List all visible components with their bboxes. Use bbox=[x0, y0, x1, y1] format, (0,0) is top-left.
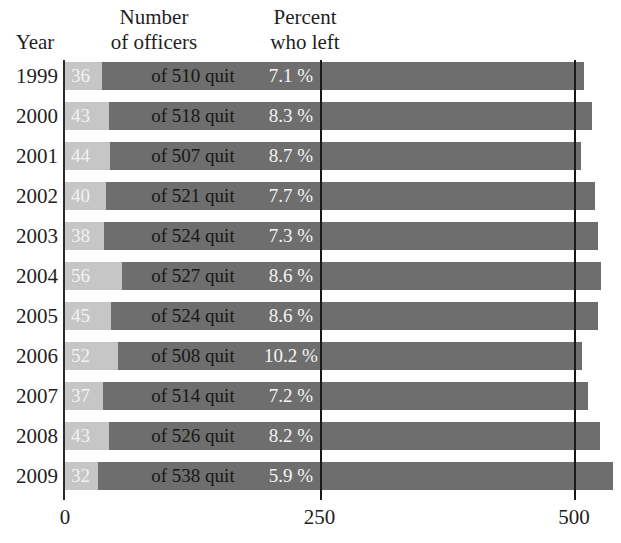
row-quit-count-label: 32 bbox=[71, 462, 90, 490]
x-axis-tick-labels: 0250500 bbox=[0, 500, 621, 540]
row-year-label: 2006 bbox=[0, 342, 58, 370]
row-of-total-label: of 507 quit bbox=[133, 142, 253, 170]
row-year-label: 2000 bbox=[0, 102, 58, 130]
row-quit-count-label: 38 bbox=[71, 222, 90, 250]
row-quit-count-label: 44 bbox=[71, 142, 90, 170]
header-number-line1: Number bbox=[120, 5, 189, 29]
chart-row: 200737of 514 quit7.2 % bbox=[0, 382, 621, 410]
chart-row: 200843of 526 quit8.2 % bbox=[0, 422, 621, 450]
chart-row: 199936of 510 quit7.1 % bbox=[0, 62, 621, 90]
chart-row: 200652of 508 quit10.2 % bbox=[0, 342, 621, 370]
row-percent-label: 10.2 % bbox=[255, 342, 327, 370]
row-percent-label: 8.3 % bbox=[255, 102, 327, 130]
x-tick-500: 500 bbox=[544, 504, 604, 530]
row-percent-label: 8.2 % bbox=[255, 422, 327, 450]
row-quit-count-label: 45 bbox=[71, 302, 90, 330]
header-percent-line2: who left bbox=[270, 30, 339, 54]
header-year: Year bbox=[6, 30, 64, 55]
header-number-line2: of officers bbox=[111, 30, 198, 54]
gridline-250 bbox=[320, 60, 322, 500]
row-of-total-label: of 521 quit bbox=[133, 182, 253, 210]
chart-row: 200545of 524 quit8.6 % bbox=[0, 302, 621, 330]
row-of-total-label: of 527 quit bbox=[133, 262, 253, 290]
row-year-label: 2002 bbox=[0, 182, 58, 210]
row-of-total-label: of 524 quit bbox=[133, 302, 253, 330]
row-percent-label: 7.1 % bbox=[255, 62, 327, 90]
row-percent-label: 8.6 % bbox=[255, 262, 327, 290]
row-percent-label: 8.7 % bbox=[255, 142, 327, 170]
chart-row: 200043of 518 quit8.3 % bbox=[0, 102, 621, 130]
row-year-label: 2008 bbox=[0, 422, 58, 450]
row-percent-label: 7.7 % bbox=[255, 182, 327, 210]
chart-row: 200932of 538 quit5.9 % bbox=[0, 462, 621, 490]
row-year-label: 2009 bbox=[0, 462, 58, 490]
row-of-total-label: of 514 quit bbox=[133, 382, 253, 410]
row-of-total-label: of 524 quit bbox=[133, 222, 253, 250]
row-percent-label: 7.2 % bbox=[255, 382, 327, 410]
header-percent-line1: Percent bbox=[274, 5, 337, 29]
chart-row: 200338of 524 quit7.3 % bbox=[0, 222, 621, 250]
row-of-total-label: of 518 quit bbox=[133, 102, 253, 130]
plot-area: 199936of 510 quit7.1 %200043of 518 quit8… bbox=[0, 60, 621, 500]
row-quit-count-label: 43 bbox=[71, 102, 90, 130]
row-percent-label: 5.9 % bbox=[255, 462, 327, 490]
officer-attrition-bar-chart: Year Numberof officers Percentwho left 1… bbox=[0, 0, 621, 543]
chart-row: 200240of 521 quit7.7 % bbox=[0, 182, 621, 210]
row-quit-count-label: 40 bbox=[71, 182, 90, 210]
header-percent-who-left: Percentwho left bbox=[240, 5, 370, 55]
row-percent-label: 8.6 % bbox=[255, 302, 327, 330]
header-number-of-officers: Numberof officers bbox=[84, 5, 224, 55]
row-year-label: 2001 bbox=[0, 142, 58, 170]
row-of-total-label: of 526 quit bbox=[133, 422, 253, 450]
row-quit-count-label: 56 bbox=[71, 262, 90, 290]
chart-row: 200144of 507 quit8.7 % bbox=[0, 142, 621, 170]
row-year-label: 2007 bbox=[0, 382, 58, 410]
row-of-total-label: of 538 quit bbox=[133, 462, 253, 490]
row-year-label: 2005 bbox=[0, 302, 58, 330]
x-tick-0: 0 bbox=[35, 504, 95, 530]
gridline-500 bbox=[574, 60, 576, 500]
row-of-total-label: of 508 quit bbox=[133, 342, 253, 370]
chart-column-headers: Year Numberof officers Percentwho left bbox=[0, 0, 621, 58]
row-of-total-label: of 510 quit bbox=[133, 62, 253, 90]
chart-row: 200456of 527 quit8.6 % bbox=[0, 262, 621, 290]
row-quit-count-label: 52 bbox=[71, 342, 90, 370]
x-tick-250: 250 bbox=[290, 504, 350, 530]
row-quit-count-label: 36 bbox=[71, 62, 90, 90]
row-percent-label: 7.3 % bbox=[255, 222, 327, 250]
row-quit-count-label: 37 bbox=[71, 382, 90, 410]
row-year-label: 2004 bbox=[0, 262, 58, 290]
row-year-label: 1999 bbox=[0, 62, 58, 90]
row-year-label: 2003 bbox=[0, 222, 58, 250]
row-quit-count-label: 43 bbox=[71, 422, 90, 450]
